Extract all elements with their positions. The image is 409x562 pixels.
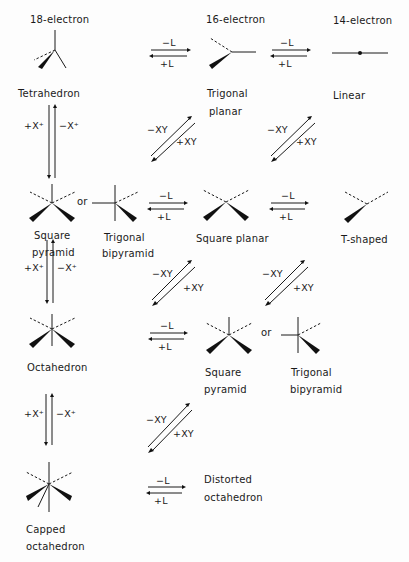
label-distorted-octahedron-line2: octahedron bbox=[204, 492, 263, 503]
arrow-label-minus-XY: −XY bbox=[267, 124, 288, 135]
label-linear: Linear bbox=[333, 90, 365, 101]
equilibrium-arrow-L bbox=[147, 201, 188, 211]
label-trigonal-planar-line2: planar bbox=[209, 106, 242, 117]
label-square-pyramid-line2: pyramid bbox=[32, 247, 75, 258]
arrow-label-minus-L: −L bbox=[281, 190, 295, 201]
header-16-electron: 16-electron bbox=[206, 14, 265, 25]
label-tetrahedron: Tetrahedron bbox=[18, 88, 80, 99]
label-tbp-line2: bipyramid bbox=[102, 248, 154, 259]
trigonal-bipyramid-structure bbox=[281, 317, 321, 354]
label-tbp-2-line1: Trigonal bbox=[291, 367, 332, 378]
arrow-label-plus-X: +X⁺ bbox=[24, 262, 44, 273]
arrow-label-minus-L: −L bbox=[160, 320, 174, 331]
arrow-label-plus-L: +L bbox=[279, 211, 293, 222]
arrow-label-minus-L: −L bbox=[156, 475, 170, 486]
header-14-electron: 14-electron bbox=[333, 15, 392, 26]
arrow-label-minus-XY: −XY bbox=[152, 268, 173, 279]
t-shaped-structure bbox=[344, 192, 388, 223]
linear-structure bbox=[332, 51, 388, 55]
reaction-scheme: 18-electron 16-electron 14-electron Tetr… bbox=[0, 0, 409, 562]
label-t-shaped: T-shaped bbox=[341, 234, 388, 245]
arrow-label-minus-X: −X⁺ bbox=[57, 262, 77, 273]
arrow-label-plus-X: +X⁺ bbox=[24, 120, 44, 131]
label-square-pyramid-line1: Square bbox=[34, 230, 70, 241]
equilibrium-arrow-L bbox=[270, 48, 311, 58]
label-or: or bbox=[77, 196, 88, 207]
arrow-label-plus-X: +X⁺ bbox=[24, 408, 44, 419]
equilibrium-arrow-L bbox=[148, 331, 188, 341]
arrow-label-plus-XY: +XY bbox=[173, 428, 194, 439]
label-tbp-line1: Trigonal bbox=[104, 232, 145, 243]
equilibrium-arrow-L bbox=[146, 485, 186, 495]
arrow-label-plus-XY: +XY bbox=[183, 282, 204, 293]
arrow-label-minus-L: −L bbox=[280, 37, 294, 48]
label-trigonal-planar-line1: Trigonal bbox=[207, 88, 248, 99]
label-square-pyramid-2-line1: Square bbox=[205, 367, 241, 378]
octahedron-structure bbox=[29, 314, 75, 348]
label-or: or bbox=[261, 327, 272, 338]
equilibrium-arrow-L bbox=[149, 48, 191, 58]
trigonal-bipyramid-structure bbox=[92, 185, 138, 222]
label-octahedron: Octahedron bbox=[27, 362, 88, 373]
arrow-label-plus-XY: +XY bbox=[293, 282, 314, 293]
square-pyramid-structure bbox=[29, 184, 75, 222]
arrow-label-plus-L: +L bbox=[154, 495, 168, 506]
arrow-label-minus-L: −L bbox=[159, 190, 173, 201]
arrow-label-plus-XY: +XY bbox=[176, 136, 197, 147]
arrow-label-minus-X: −X⁺ bbox=[56, 408, 76, 419]
label-distorted-octahedron-line1: Distorted bbox=[204, 474, 252, 485]
label-capped-octahedron-line1: Capped bbox=[26, 524, 66, 535]
arrow-label-minus-XY: −XY bbox=[146, 414, 167, 425]
arrow-label-minus-L: −L bbox=[162, 37, 176, 48]
label-square-pyramid-2-line2: pyramid bbox=[204, 384, 247, 395]
square-planar-structure bbox=[203, 190, 249, 221]
label-capped-octahedron-line2: octahedron bbox=[26, 541, 85, 552]
equilibrium-arrow-L bbox=[269, 201, 309, 211]
arrow-label-minus-XY: −XY bbox=[147, 124, 168, 135]
label-tbp-2-line2: bipyramid bbox=[290, 384, 342, 395]
arrow-label-plus-L: +L bbox=[278, 58, 292, 69]
square-pyramid-structure bbox=[206, 317, 252, 354]
capped-octahedron-structure bbox=[26, 462, 73, 512]
arrow-label-plus-L: +L bbox=[157, 211, 171, 222]
arrow-label-minus-XY: −XY bbox=[262, 268, 283, 279]
trigonal-planar-structure bbox=[209, 38, 256, 69]
arrow-label-plus-XY: +XY bbox=[296, 136, 317, 147]
header-18-electron: 18-electron bbox=[30, 14, 89, 25]
equilibrium-arrow-X bbox=[47, 104, 57, 179]
arrow-label-plus-L: +L bbox=[160, 58, 174, 69]
label-square-planar: Square planar bbox=[196, 233, 269, 244]
arrow-label-plus-L: +L bbox=[158, 341, 172, 352]
arrow-label-minus-X: −X⁺ bbox=[59, 120, 79, 131]
equilibrium-arrow-X bbox=[44, 393, 54, 446]
tetrahedron-structure bbox=[34, 30, 66, 69]
